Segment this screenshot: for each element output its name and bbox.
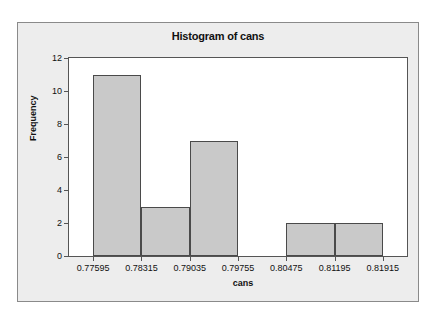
x-axis-tick xyxy=(238,256,239,261)
plot-area: 024681012 0.775950.783150.790350.797550.… xyxy=(68,57,408,257)
x-axis-tick-label: 0.79035 xyxy=(173,263,206,273)
x-axis-tick-label: 0.81915 xyxy=(367,263,400,273)
x-axis-tick-label: 0.79755 xyxy=(222,263,255,273)
y-axis-tick-label: 8 xyxy=(57,119,62,129)
y-axis-tick xyxy=(64,190,69,191)
histogram-bars xyxy=(69,58,407,256)
x-axis-tick-label: 0.80475 xyxy=(270,263,303,273)
y-axis-tick xyxy=(64,256,69,257)
histogram-bar xyxy=(93,75,141,257)
y-axis-tick-label: 0 xyxy=(57,251,62,261)
y-axis-tick xyxy=(64,124,69,125)
y-axis-tick-label: 12 xyxy=(52,53,62,63)
x-axis-tick xyxy=(190,256,191,261)
x-axis-tick-label: 0.78315 xyxy=(125,263,158,273)
x-axis-tick xyxy=(335,256,336,261)
histogram-bar xyxy=(286,223,334,256)
x-axis-tick xyxy=(141,256,142,261)
y-axis-tick-label: 10 xyxy=(52,86,62,96)
x-axis-tick xyxy=(93,256,94,261)
y-axis-tick xyxy=(64,223,69,224)
y-axis-tick xyxy=(64,157,69,158)
histogram-bar xyxy=(335,223,383,256)
y-axis-tick xyxy=(64,58,69,59)
histogram-bar xyxy=(141,207,189,257)
x-axis-tick-label: 0.81195 xyxy=(319,263,351,273)
y-axis-tick-label: 4 xyxy=(57,185,62,195)
y-axis-title: Frequency xyxy=(28,95,38,141)
x-axis-tick xyxy=(286,256,287,261)
chart-title: Histogram of cans xyxy=(18,30,418,42)
x-axis-tick-label: 0.77595 xyxy=(77,263,110,273)
chart-panel: Histogram of cans Frequency 024681012 0.… xyxy=(17,22,419,302)
y-axis-tick-label: 6 xyxy=(57,152,62,162)
histogram-bar xyxy=(190,141,238,257)
x-axis-title: cans xyxy=(68,278,418,288)
x-axis-tick xyxy=(383,256,384,261)
y-axis-tick xyxy=(64,91,69,92)
y-axis-tick-label: 2 xyxy=(57,218,62,228)
